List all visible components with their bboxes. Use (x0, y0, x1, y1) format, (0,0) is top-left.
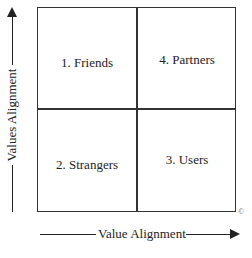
x-axis-line-left (40, 234, 96, 235)
quadrant-strangers: 2. Strangers (56, 157, 118, 173)
quadrant-partners: 4. Partners (159, 52, 215, 68)
horizontal-divider (38, 108, 235, 110)
matrix-grid: 1. Friends 4. Partners 2. Strangers 3. U… (37, 7, 236, 212)
quadrant-friends: 1. Friends (61, 55, 113, 71)
copyright-mark: © (238, 207, 244, 216)
y-axis-line-upper (12, 15, 13, 65)
y-axis-label: Values Alignment (4, 69, 20, 162)
y-axis-line-lower (12, 165, 13, 212)
x-axis-label: Value Alignment (98, 226, 186, 242)
right-arrow-icon (230, 229, 240, 239)
vertical-divider (136, 8, 138, 211)
x-axis: Value Alignment (40, 226, 244, 242)
x-axis-line-right (186, 234, 232, 235)
quadrant-users: 3. Users (166, 152, 209, 168)
y-axis: Values Alignment (4, 7, 20, 212)
